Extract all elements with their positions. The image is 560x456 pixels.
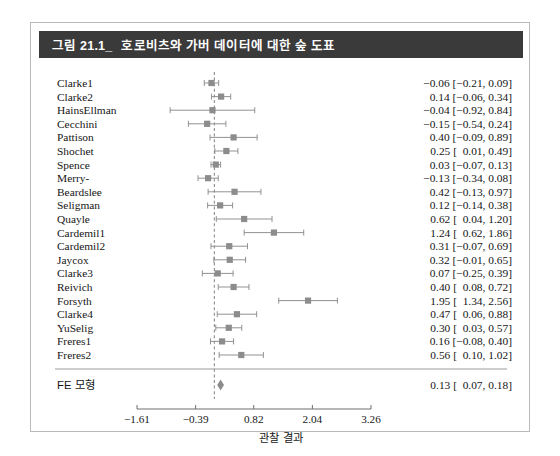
forest-row: Shochet0.25 [ 0.01, 0.49] — [31, 144, 531, 158]
forest-row-label: Merry- — [57, 171, 89, 185]
forest-row-stat: −0.13 [−0.34, 0.08] — [423, 171, 512, 185]
forest-row-label: Clarke2 — [57, 90, 93, 104]
figure-frame: 그림 21.1_ 호로비츠와 가버 데이터에 대한 숲 도표 Clarke1−0… — [30, 22, 530, 432]
forest-row: Cardemil20.31 [−0.07, 0.69] — [31, 239, 531, 253]
summary-diamond — [217, 380, 224, 391]
forest-row-label: Freres2 — [57, 348, 91, 362]
forest-row-stat: 0.12 [−0.14, 0.38] — [430, 198, 512, 212]
forest-row: Cardemil11.24 [ 0.62, 1.86] — [31, 226, 531, 240]
forest-row-label: Clarke1 — [57, 76, 93, 90]
forest-row-stat: 0.47 [ 0.06, 0.88] — [430, 307, 512, 321]
forest-row-label: Shochet — [57, 144, 94, 158]
forest-row-stat: 0.62 [ 0.04, 1.20] — [430, 212, 512, 226]
forest-row: Forsyth1.95 [ 1.34, 2.56] — [31, 294, 531, 308]
forest-row: Quayle0.62 [ 0.04, 1.20] — [31, 212, 531, 226]
forest-row-label: YuSelig — [57, 321, 93, 335]
forest-row-label: Cardemil2 — [57, 239, 105, 253]
forest-row-label: Seligman — [57, 198, 100, 212]
forest-row-label: Spence — [57, 158, 90, 172]
forest-row: Clarke40.47 [ 0.06, 0.88] — [31, 307, 531, 321]
forest-row-stat: 0.40 [−0.09, 0.89] — [430, 130, 512, 144]
forest-row-stat: 0.40 [ 0.08, 0.72] — [430, 280, 512, 294]
forest-row: Freres20.56 [ 0.10, 1.02] — [31, 348, 531, 362]
forest-row-stat: −0.06 [−0.21, 0.09] — [423, 76, 512, 90]
forest-row-label: Cecchini — [57, 117, 98, 131]
forest-plot: Clarke1−0.06 [−0.21, 0.09]Clarke20.14 [−… — [31, 68, 531, 428]
forest-row-stat: 0.07 [−0.25, 0.39] — [430, 266, 512, 280]
x-axis-tick-label: 3.26 — [361, 413, 381, 425]
forest-row: Pattison0.40 [−0.09, 0.89] — [31, 130, 531, 144]
forest-row: Seligman0.12 [−0.14, 0.38] — [31, 198, 531, 212]
forest-row-label: Forsyth — [57, 294, 92, 308]
x-axis-tick-label: −1.61 — [124, 413, 150, 425]
figure-caption-title: 호로비츠와 가버 데이터에 대한 숲 도표 — [121, 35, 335, 54]
forest-row-stat: 0.03 [−0.07, 0.13] — [430, 158, 512, 172]
x-axis-title: 관찰 결과 — [31, 429, 531, 445]
x-axis-tick-label: −0.39 — [183, 413, 209, 425]
forest-row: Jaycox0.32 [−0.01, 0.65] — [31, 253, 531, 267]
forest-row-label: Freres1 — [57, 334, 91, 348]
forest-row-label: HainsEllman — [57, 103, 116, 117]
x-axis-tick-label: 2.04 — [303, 413, 323, 425]
figure-caption-number: 그림 21.1_ — [52, 35, 112, 54]
forest-row-stat: 0.14 [−0.06, 0.34] — [430, 90, 512, 104]
forest-row: Spence0.03 [−0.07, 0.13] — [31, 158, 531, 172]
x-axis-tick-label: 0.82 — [244, 413, 264, 425]
forest-row: Clarke30.07 [−0.25, 0.39] — [31, 266, 531, 280]
forest-row-label: Clarke3 — [57, 266, 93, 280]
forest-row: Freres10.16 [−0.08, 0.40] — [31, 334, 531, 348]
forest-row: Clarke1−0.06 [−0.21, 0.09] — [31, 76, 531, 90]
summary-row-stat: 0.13 [ 0.07, 0.18] — [430, 378, 512, 392]
forest-row: HainsEllman−0.04 [−0.92, 0.84] — [31, 103, 531, 117]
forest-row-stat: 0.16 [−0.08, 0.40] — [430, 334, 512, 348]
forest-row-stat: 0.32 [−0.01, 0.65] — [430, 253, 512, 267]
forest-row-stat: 0.56 [ 0.10, 1.02] — [430, 348, 512, 362]
forest-row-stat: 0.42 [−0.13, 0.97] — [430, 185, 512, 199]
forest-row: Reivich0.40 [ 0.08, 0.72] — [31, 280, 531, 294]
forest-row-label: Quayle — [57, 212, 90, 226]
forest-row: Merry-−0.13 [−0.34, 0.08] — [31, 171, 531, 185]
forest-row-label: Reivich — [57, 280, 92, 294]
figure-caption-bar: 그림 21.1_ 호로비츠와 가버 데이터에 대한 숲 도표 — [39, 31, 523, 58]
forest-row-stat: 0.25 [ 0.01, 0.49] — [430, 144, 512, 158]
forest-row-stat: −0.15 [−0.54, 0.24] — [423, 117, 512, 131]
summary-row-label: FE 모형 — [57, 378, 95, 392]
forest-row-stat: 0.31 [−0.07, 0.69] — [430, 239, 512, 253]
forest-row-label: Pattison — [57, 130, 94, 144]
forest-row-label: Jaycox — [57, 253, 89, 267]
forest-row: YuSelig0.30 [ 0.03, 0.57] — [31, 321, 531, 335]
forest-row-stat: −0.04 [−0.92, 0.84] — [423, 103, 512, 117]
forest-row: Cecchini−0.15 [−0.54, 0.24] — [31, 117, 531, 131]
forest-row-stat: 1.95 [ 1.34, 2.56] — [430, 294, 512, 308]
forest-row: Beardslee0.42 [−0.13, 0.97] — [31, 185, 531, 199]
forest-row-label: Cardemil1 — [57, 226, 105, 240]
forest-row-stat: 1.24 [ 0.62, 1.86] — [430, 226, 512, 240]
forest-row-stat: 0.30 [ 0.03, 0.57] — [430, 321, 512, 335]
forest-row-label: Clarke4 — [57, 307, 93, 321]
forest-row: Clarke20.14 [−0.06, 0.34] — [31, 90, 531, 104]
forest-row-label: Beardslee — [57, 185, 102, 199]
